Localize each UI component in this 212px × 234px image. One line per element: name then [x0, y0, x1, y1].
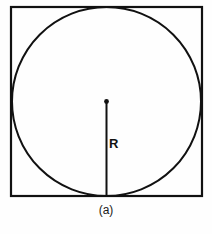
figure-caption: (a) [0, 204, 212, 216]
center-point-dot [104, 99, 109, 104]
radius-label: R [109, 137, 119, 150]
figure-container: R (a) [0, 0, 212, 234]
inscribed-circle-diagram [0, 0, 212, 234]
